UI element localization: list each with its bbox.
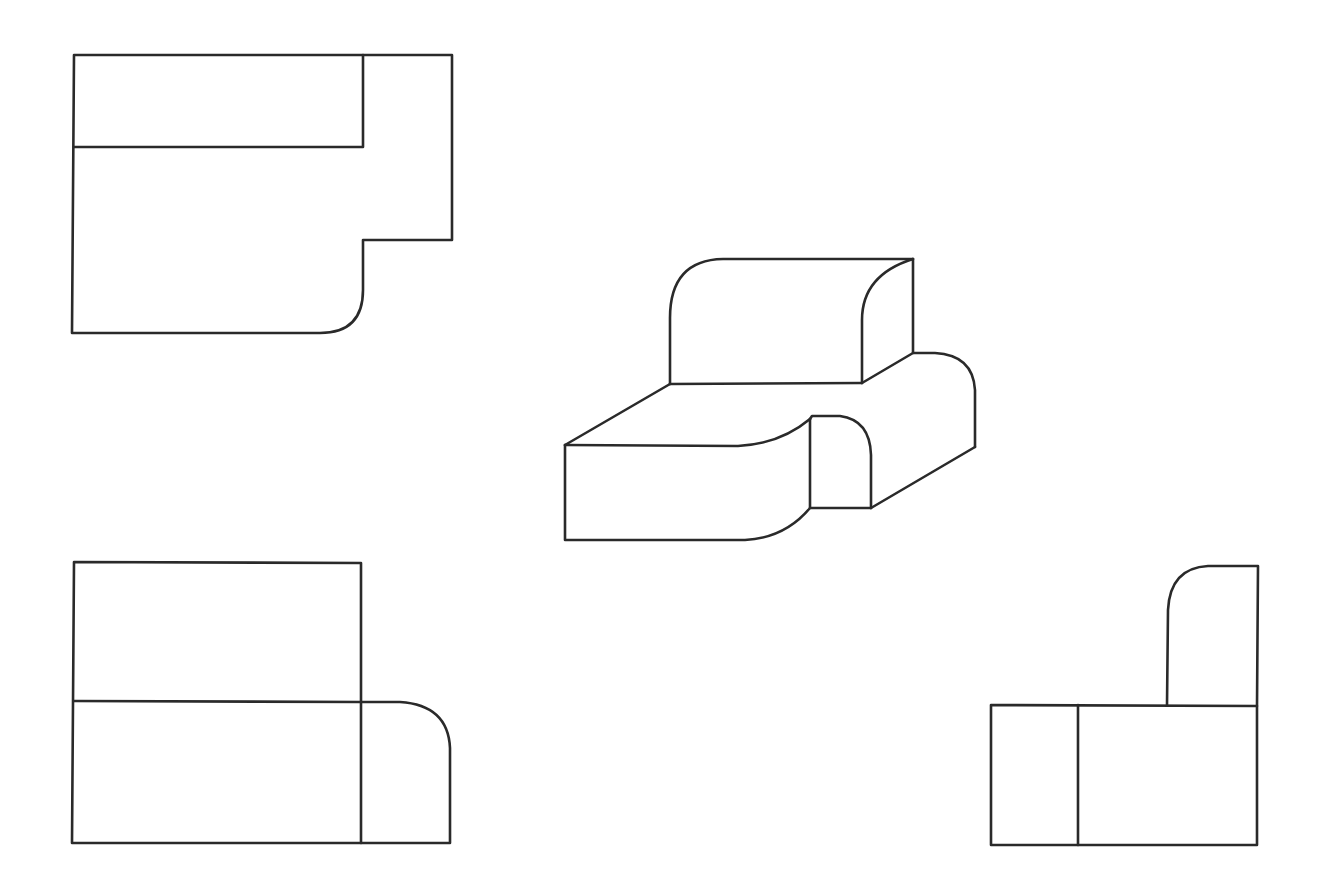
front-view: Front view	[72, 562, 450, 843]
top-view: Top view	[72, 55, 452, 333]
side-view: Side view	[991, 566, 1258, 845]
isometric-view: Isometric view	[565, 259, 975, 540]
